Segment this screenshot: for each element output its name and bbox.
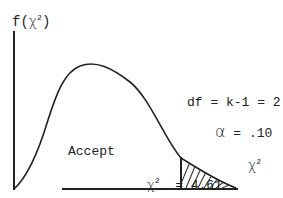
critical-value-label: χ2 = 4.61 (147, 177, 222, 192)
density-curve (14, 64, 236, 189)
chi-square-diagram: f(χ2) df = k-1 = 2 α = .10 Accept χ2 χ2 … (0, 0, 283, 198)
accept-label: Accept (68, 145, 115, 158)
y-axis-label: f(χ2) (12, 14, 50, 29)
x-axis-label: χ2 (248, 158, 261, 173)
df-label: df = k-1 = 2 (187, 96, 281, 109)
alpha-label: α = .10 (215, 124, 272, 140)
